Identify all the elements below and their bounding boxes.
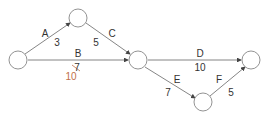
duration-b-corrected: 10 bbox=[65, 72, 76, 82]
duration-d: 10 bbox=[194, 63, 205, 73]
label-e: E bbox=[174, 75, 181, 85]
duration-e: 7 bbox=[165, 88, 171, 98]
node-middle bbox=[129, 51, 147, 69]
node-top bbox=[69, 9, 87, 27]
label-c: C bbox=[108, 29, 115, 39]
duration-a: 3 bbox=[54, 38, 60, 48]
duration-c: 5 bbox=[93, 38, 99, 48]
label-d: D bbox=[196, 49, 203, 59]
label-b: B bbox=[75, 49, 82, 59]
node-start bbox=[9, 51, 27, 69]
label-a: A bbox=[42, 29, 49, 39]
node-bottom bbox=[194, 93, 212, 111]
network-diagram bbox=[0, 0, 271, 120]
node-end bbox=[242, 51, 260, 69]
duration-f: 5 bbox=[228, 88, 234, 98]
label-f: F bbox=[216, 75, 222, 85]
